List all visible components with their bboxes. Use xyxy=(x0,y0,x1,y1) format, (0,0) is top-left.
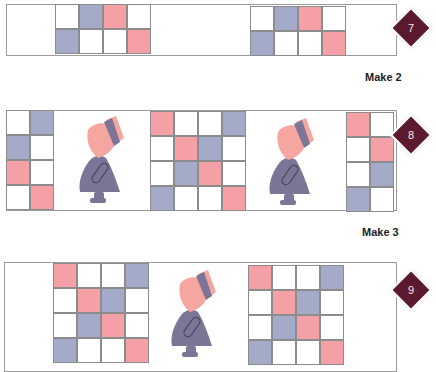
dress-shape xyxy=(79,156,120,192)
row-7-left-block xyxy=(55,4,151,54)
patch-white xyxy=(174,186,198,211)
patch-pink xyxy=(272,290,296,315)
patch-white xyxy=(53,288,77,313)
patch-white xyxy=(150,136,174,161)
patch-pink xyxy=(53,263,77,288)
make-count-label: Make 2 xyxy=(365,71,402,83)
patch-white xyxy=(79,29,103,54)
patch-blue xyxy=(320,265,344,290)
patch-blue xyxy=(30,110,54,135)
patch-white xyxy=(222,161,246,186)
patch-pink xyxy=(77,288,101,313)
sunbonnet-figure-icon xyxy=(266,118,326,208)
patch-white xyxy=(101,338,125,363)
dress-shape xyxy=(269,158,310,194)
patch-white xyxy=(30,160,54,185)
patch-white xyxy=(272,340,296,365)
patch-blue xyxy=(101,288,125,313)
patch-blue xyxy=(274,6,298,31)
patch-pink xyxy=(150,111,174,136)
row-9-right-block xyxy=(248,265,344,365)
patch-blue xyxy=(272,315,296,340)
patch-blue xyxy=(79,4,103,29)
badge-number: 8 xyxy=(393,117,429,153)
patch-white xyxy=(346,137,370,162)
patch-blue xyxy=(370,162,394,187)
patch-white xyxy=(370,187,394,212)
patch-white xyxy=(346,162,370,187)
patch-blue xyxy=(346,187,370,212)
patch-white xyxy=(77,338,101,363)
patch-white xyxy=(272,265,296,290)
patch-white xyxy=(274,31,298,56)
patch-white xyxy=(101,263,125,288)
make-count-label: Make 3 xyxy=(362,226,399,238)
shoe-shape xyxy=(182,352,198,357)
patch-white xyxy=(296,340,320,365)
patch-pink xyxy=(222,186,246,211)
patch-pink xyxy=(322,31,346,56)
row-9-left-block xyxy=(53,263,149,363)
patch-pink xyxy=(320,340,344,365)
patch-blue xyxy=(150,186,174,211)
patch-white xyxy=(103,29,127,54)
patch-blue xyxy=(250,31,274,56)
patch-white xyxy=(174,111,198,136)
patch-pink xyxy=(370,137,394,162)
patch-white xyxy=(125,288,149,313)
patch-pink xyxy=(103,4,127,29)
patch-pink xyxy=(30,185,54,210)
row-7-right-block xyxy=(250,6,346,56)
patch-blue xyxy=(77,313,101,338)
dress-shape xyxy=(171,310,212,346)
patch-white xyxy=(125,313,149,338)
patch-pink xyxy=(127,29,151,54)
row-8-right-block xyxy=(346,112,394,212)
patch-blue xyxy=(55,29,79,54)
patch-white xyxy=(198,186,222,211)
patch-pink xyxy=(125,338,149,363)
sunbonnet-figure-icon xyxy=(76,116,136,206)
patch-blue xyxy=(174,161,198,186)
patch-white xyxy=(320,315,344,340)
patch-pink xyxy=(298,6,322,31)
patch-white xyxy=(298,31,322,56)
patch-white xyxy=(320,290,344,315)
patch-white xyxy=(6,185,30,210)
patch-pink xyxy=(6,160,30,185)
patch-white xyxy=(150,161,174,186)
shoe-shape xyxy=(280,200,296,205)
patch-white xyxy=(296,265,320,290)
row-8-left-block xyxy=(6,110,54,210)
patch-blue xyxy=(222,111,246,136)
patch-blue xyxy=(296,290,320,315)
patch-pink xyxy=(101,313,125,338)
patch-pink xyxy=(346,112,370,137)
patch-blue xyxy=(248,340,272,365)
patch-white xyxy=(370,112,394,137)
badge-number: 7 xyxy=(393,10,429,46)
row-9-badge: 9 xyxy=(393,272,429,308)
patch-blue xyxy=(125,263,149,288)
row-7-badge: 7 xyxy=(393,10,429,46)
patch-white xyxy=(198,111,222,136)
sunbonnet-figure-icon xyxy=(168,270,228,360)
patch-blue xyxy=(53,338,77,363)
patch-white xyxy=(77,263,101,288)
patch-pink xyxy=(174,136,198,161)
shoe-shape xyxy=(90,198,106,203)
row-8-center-block xyxy=(150,111,246,211)
patch-white xyxy=(53,313,77,338)
patch-white xyxy=(55,4,79,29)
patch-white xyxy=(222,136,246,161)
badge-number: 9 xyxy=(393,272,429,308)
patch-pink xyxy=(198,161,222,186)
patch-white xyxy=(322,6,346,31)
patch-white xyxy=(248,315,272,340)
patch-white xyxy=(250,6,274,31)
patch-white xyxy=(127,4,151,29)
patch-blue xyxy=(198,136,222,161)
patch-pink xyxy=(248,265,272,290)
patch-pink xyxy=(296,315,320,340)
patch-white xyxy=(248,290,272,315)
